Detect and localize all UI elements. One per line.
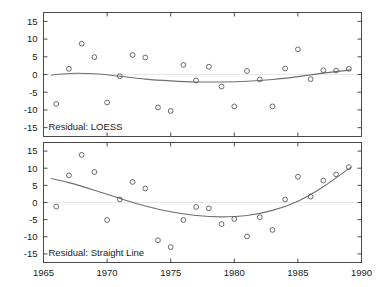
panel-annotation-label: Residual: LOESS <box>49 121 123 132</box>
chart-canvas: -15-10-5051015Residual: LOESS-15-10-5051… <box>0 0 384 287</box>
data-point <box>296 174 301 179</box>
data-point <box>219 84 224 89</box>
y-tick-label: 15 <box>27 145 38 156</box>
data-point <box>143 186 148 191</box>
data-point <box>79 152 84 157</box>
data-point <box>321 68 326 73</box>
y-tick-label: 10 <box>27 163 38 174</box>
data-point <box>130 180 135 185</box>
data-point <box>334 172 339 177</box>
panel-top: -15-10-5051015Residual: LOESS <box>24 13 362 137</box>
data-point <box>92 55 97 60</box>
data-point <box>296 47 301 52</box>
y-tick-label: -10 <box>24 231 38 242</box>
data-point <box>156 105 161 110</box>
data-point <box>168 245 173 250</box>
data-point <box>181 218 186 223</box>
data-point <box>270 104 275 109</box>
y-tick-label: -15 <box>24 248 38 259</box>
data-point <box>270 228 275 233</box>
data-point <box>232 217 237 222</box>
panel-bottom: -15-10-5051015196519701975198019851990Re… <box>24 143 372 278</box>
y-tick-label: 5 <box>32 51 37 62</box>
y-tick-label: 15 <box>27 16 38 27</box>
data-points <box>54 41 351 113</box>
data-point <box>156 238 161 243</box>
data-point <box>181 63 186 68</box>
data-point <box>257 77 262 82</box>
data-point <box>92 170 97 175</box>
data-point <box>130 53 135 58</box>
panel-annotation-label: Residual: Straight Line <box>49 247 145 258</box>
data-point <box>105 100 110 105</box>
y-tick-label: 5 <box>32 180 37 191</box>
data-point <box>257 215 262 220</box>
data-point <box>194 205 199 210</box>
x-tick-label: 1980 <box>224 267 245 278</box>
data-point <box>105 218 110 223</box>
data-point <box>168 109 173 114</box>
fitted-curve <box>51 167 351 217</box>
y-tick-label: 0 <box>32 69 37 80</box>
y-tick-label: 10 <box>27 33 38 44</box>
data-point <box>54 102 59 107</box>
data-point <box>308 77 313 82</box>
data-point <box>67 173 72 178</box>
data-point <box>67 66 72 71</box>
data-point <box>143 55 148 60</box>
y-tick-label: -5 <box>29 87 37 98</box>
data-point <box>219 222 224 227</box>
y-tick-label: -15 <box>24 122 38 133</box>
data-point <box>206 206 211 211</box>
data-point <box>334 68 339 73</box>
x-tick-label: 1970 <box>97 267 118 278</box>
data-point <box>206 64 211 69</box>
y-tick-label: 0 <box>32 197 37 208</box>
x-tick-label: 1965 <box>33 267 54 278</box>
data-point <box>79 41 84 46</box>
data-point <box>283 66 288 71</box>
data-point <box>232 104 237 109</box>
data-point <box>245 234 250 239</box>
y-tick-label: -10 <box>24 104 38 115</box>
y-tick-label: -5 <box>29 214 37 225</box>
data-point <box>321 178 326 183</box>
data-points <box>54 152 351 249</box>
x-tick-label: 1990 <box>351 267 372 278</box>
data-point <box>283 197 288 202</box>
fitted-curve <box>51 70 351 82</box>
residual-plots-figure: -15-10-5051015Residual: LOESS-15-10-5051… <box>0 0 384 287</box>
x-tick-label: 1985 <box>287 267 308 278</box>
data-point <box>245 69 250 74</box>
data-point <box>54 204 59 209</box>
x-tick-label: 1975 <box>160 267 181 278</box>
